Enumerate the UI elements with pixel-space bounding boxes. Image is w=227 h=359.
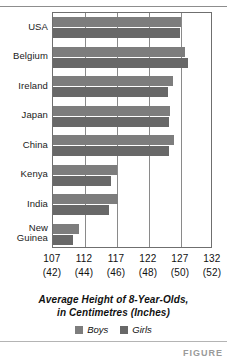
chart-title: Average Height of 8-Year-Olds, in Centim… bbox=[0, 294, 227, 319]
tick-label-132: 132(52) bbox=[192, 252, 227, 280]
category-label-ireland: Ireland bbox=[0, 81, 48, 91]
bar-usa-girls bbox=[53, 28, 180, 38]
bars-layer bbox=[53, 13, 211, 247]
legend-item-boys: Boys bbox=[75, 324, 108, 335]
legend-item-girls: Girls bbox=[120, 324, 152, 335]
value-axis-labels: 107(42)112(44)117(46)122(48)127(50)132(5… bbox=[52, 252, 212, 286]
category-axis-labels: USABelgiumIrelandJapanChinaKenyaIndiaNew… bbox=[0, 12, 48, 248]
category-label-india: India bbox=[0, 199, 48, 209]
bar-kenya-girls bbox=[53, 176, 111, 186]
figure-page: USABelgiumIrelandJapanChinaKenyaIndiaNew… bbox=[0, 0, 227, 359]
bar-new-guinea-girls bbox=[53, 235, 73, 245]
chart-title-line-1: Average Height of 8-Year-Olds, bbox=[39, 294, 189, 305]
bar-ireland-girls bbox=[53, 87, 168, 97]
category-label-belgium: Belgium bbox=[0, 51, 48, 61]
chart-legend: BoysGirls bbox=[0, 324, 227, 335]
legend-label-girls: Girls bbox=[132, 324, 152, 335]
top-divider bbox=[0, 6, 227, 7]
chart-title-line-2: in Centimetres (Inches) bbox=[57, 307, 170, 318]
legend-swatch-boys bbox=[75, 326, 83, 334]
bar-india-girls bbox=[53, 205, 109, 215]
category-label-new-guinea: NewGuinea bbox=[0, 223, 48, 244]
bar-india-boys bbox=[53, 194, 118, 204]
category-label-japan: Japan bbox=[0, 110, 48, 120]
plot-frame bbox=[52, 12, 212, 248]
tick-cm-132: 132 bbox=[192, 252, 227, 266]
category-label-china: China bbox=[0, 140, 48, 150]
bar-belgium-boys bbox=[53, 47, 185, 57]
legend-label-boys: Boys bbox=[87, 324, 108, 335]
bar-new-guinea-boys bbox=[53, 224, 79, 234]
tick-inches-132: (52) bbox=[192, 266, 227, 280]
figure-caption-note: FIGURE bbox=[183, 348, 223, 358]
bar-belgium-girls bbox=[53, 58, 188, 68]
legend-swatch-girls bbox=[120, 326, 128, 334]
bar-ireland-boys bbox=[53, 76, 173, 86]
chart-area: USABelgiumIrelandJapanChinaKenyaIndiaNew… bbox=[0, 12, 227, 262]
bottom-divider bbox=[0, 341, 227, 342]
bar-usa-boys bbox=[53, 17, 181, 27]
bar-japan-boys bbox=[53, 106, 170, 116]
bar-china-boys bbox=[53, 135, 174, 145]
bar-china-girls bbox=[53, 146, 169, 156]
bar-japan-girls bbox=[53, 117, 169, 127]
category-label-kenya: Kenya bbox=[0, 169, 48, 179]
bar-kenya-boys bbox=[53, 165, 117, 175]
category-label-usa: USA bbox=[0, 22, 48, 32]
